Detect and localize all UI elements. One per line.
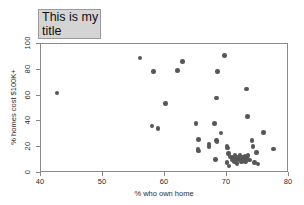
- x-axis-tick: [288, 172, 289, 176]
- data-point: [194, 121, 199, 126]
- data-point: [215, 139, 220, 144]
- y-axis-tick: [36, 172, 40, 173]
- data-point: [207, 144, 212, 149]
- data-point: [180, 59, 185, 64]
- data-point: [175, 68, 180, 73]
- data-point: [225, 146, 230, 151]
- data-point: [261, 130, 266, 135]
- scatter-chart-figure: This is my title % homes cost $100K+ % w…: [0, 0, 304, 205]
- data-point: [244, 87, 249, 92]
- x-axis-tick-label: 70: [222, 177, 231, 186]
- x-axis-tick: [164, 172, 165, 176]
- x-axis-tick-label: 80: [284, 177, 293, 186]
- y-axis-tick-label: 100: [23, 36, 32, 49]
- y-axis-tick-label: 60: [23, 90, 32, 99]
- data-point: [212, 121, 217, 126]
- x-axis-label: % who own home: [134, 189, 193, 198]
- y-axis-tick-label: 20: [23, 142, 32, 151]
- x-axis-tick-label: 40: [36, 177, 45, 186]
- x-axis-tick: [40, 172, 41, 176]
- data-point: [151, 69, 156, 74]
- x-axis-tick-label: 60: [160, 177, 169, 186]
- data-point: [215, 69, 220, 74]
- data-point: [251, 144, 256, 149]
- data-point: [163, 101, 168, 106]
- data-point: [245, 114, 250, 119]
- data-point: [227, 164, 232, 169]
- data-point: [213, 157, 218, 162]
- y-axis-tick-label: 80: [23, 64, 32, 73]
- y-axis-tick-label: 0: [23, 170, 32, 174]
- data-point: [138, 56, 143, 61]
- chart-title: This is my title: [38, 9, 101, 39]
- y-axis-tick-label: 40: [23, 116, 32, 125]
- data-point: [55, 91, 60, 96]
- data-point: [156, 126, 161, 131]
- plot-area: [40, 43, 288, 172]
- x-axis-tick: [102, 172, 103, 176]
- data-point: [256, 162, 261, 167]
- x-axis-tick-label: 50: [98, 177, 107, 186]
- y-axis-label: % homes cost $100K+: [9, 69, 18, 144]
- data-point: [250, 138, 255, 143]
- x-axis-tick: [226, 172, 227, 176]
- data-point: [196, 149, 201, 154]
- data-point: [254, 150, 259, 155]
- data-point: [150, 124, 155, 129]
- data-point: [219, 131, 224, 136]
- data-point: [247, 158, 252, 163]
- data-point: [222, 53, 227, 58]
- data-points-layer: [41, 44, 287, 171]
- data-point: [196, 137, 201, 142]
- data-point: [214, 96, 219, 101]
- data-point: [271, 147, 276, 152]
